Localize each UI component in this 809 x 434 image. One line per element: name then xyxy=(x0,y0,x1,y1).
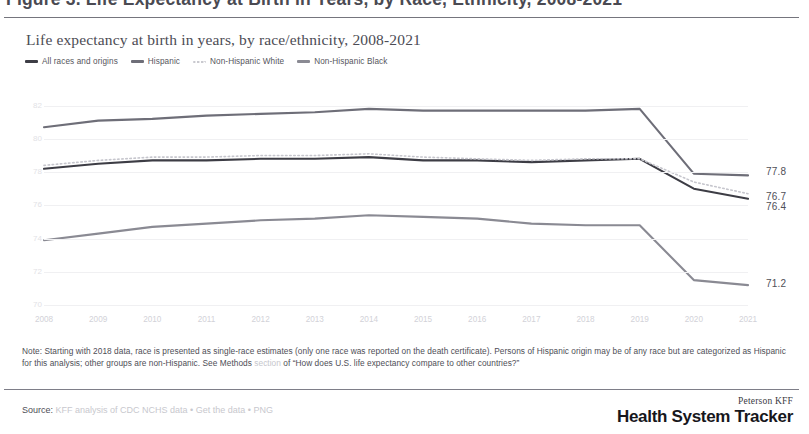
source-line: Source: KFF analysis of CDC NCHS data • … xyxy=(22,405,273,415)
x-axis-tick-label: 2020 xyxy=(685,315,703,324)
y-axis-tick-label: 76 xyxy=(22,200,42,209)
y-axis-tick-label: 72 xyxy=(22,267,42,276)
figure-page: Figure 3. Life Expectancy at Birth in Ye… xyxy=(0,0,809,434)
x-axis-tick-label: 2012 xyxy=(252,315,270,324)
y-axis-tick-label: 80 xyxy=(22,134,42,143)
x-axis-tick-label: 2010 xyxy=(143,315,161,324)
legend-item-1[interactable]: Hispanic xyxy=(131,57,180,66)
gridline xyxy=(44,239,748,240)
gridline xyxy=(44,205,748,206)
header-divider xyxy=(4,17,799,18)
x-axis: 2008200920102011201220132014201520162017… xyxy=(18,315,798,333)
legend-swatch-icon xyxy=(297,60,310,63)
x-axis-tick-label: 2019 xyxy=(631,315,649,324)
note-line-3: to other countries?” xyxy=(447,358,519,368)
legend-swatch-icon xyxy=(25,60,38,63)
legend-label: All races and origins xyxy=(42,57,118,66)
note-line-1: Note: Starting with 2018 data, race is p… xyxy=(22,346,610,356)
gridline xyxy=(44,139,748,140)
footer-divider xyxy=(4,389,799,390)
chart-subtitle: Life expectancy at birth in years, by ra… xyxy=(26,31,421,49)
chart-legend: All races and originsHispanicNon-Hispani… xyxy=(25,57,400,66)
chart-card: Life expectancy at birth in years, by ra… xyxy=(0,19,809,390)
legend-item-3[interactable]: Non-Hispanic Black xyxy=(297,57,387,66)
legend-swatch-icon xyxy=(131,60,144,63)
x-axis-tick-label: 2009 xyxy=(89,315,107,324)
y-axis-tick-label: 74 xyxy=(22,234,42,243)
series-line-1[interactable] xyxy=(44,109,748,175)
x-axis-tick-label: 2013 xyxy=(306,315,324,324)
series-line-3[interactable] xyxy=(44,215,748,285)
legend-label: Hispanic xyxy=(148,57,180,66)
gridline xyxy=(44,172,748,173)
x-axis-tick-label: 2016 xyxy=(468,315,486,324)
gridline xyxy=(44,305,748,306)
x-axis-tick-label: 2014 xyxy=(360,315,378,324)
legend-swatch-icon xyxy=(193,61,206,63)
source-value[interactable]: KFF analysis of CDC NCHS data • Get the … xyxy=(56,405,273,415)
x-axis-tick-label: 2011 xyxy=(198,315,216,324)
legend-label: Non-Hispanic White xyxy=(210,57,284,66)
x-axis-tick-label: 2018 xyxy=(576,315,594,324)
x-axis-tick-label: 2017 xyxy=(522,315,540,324)
figure-title: Figure 3. Life Expectancy at Birth in Ye… xyxy=(6,0,622,10)
note-link-section[interactable]: section xyxy=(254,358,281,368)
series-end-label: 76.4 xyxy=(766,201,786,212)
y-axis-tick-label: 70 xyxy=(22,300,42,309)
x-axis-tick-label: 2021 xyxy=(739,315,757,324)
source-label: Source: xyxy=(22,405,53,415)
series-line-0[interactable] xyxy=(44,157,748,199)
x-axis-tick-label: 2008 xyxy=(35,315,53,324)
series-end-label: 77.8 xyxy=(766,166,786,177)
y-axis-tick-label: 78 xyxy=(22,167,42,176)
legend-item-2[interactable]: Non-Hispanic White xyxy=(193,57,284,66)
gridline xyxy=(44,272,748,273)
x-axis-tick-label: 2015 xyxy=(414,315,432,324)
legend-label: Non-Hispanic Black xyxy=(314,57,387,66)
brand-top-text: Peterson KFF xyxy=(617,396,793,406)
brand-main-text: Health System Tracker xyxy=(617,407,793,427)
legend-item-0[interactable]: All races and origins xyxy=(25,57,118,66)
gridline xyxy=(44,106,748,107)
chart-note: Note: Starting with 2018 data, race is p… xyxy=(22,345,788,370)
y-axis-tick-label: 82 xyxy=(22,101,42,110)
note-line-2c: of “How does U.S. life expectancy compar… xyxy=(283,358,444,368)
plot-area: 70727476788082 xyxy=(18,83,798,315)
brand-logo: Peterson KFF Health System Tracker xyxy=(617,396,793,427)
figure-header: Figure 3. Life Expectancy at Birth in Ye… xyxy=(0,0,809,17)
series-end-label: 71.2 xyxy=(766,278,786,289)
line-chart-svg xyxy=(18,83,798,315)
